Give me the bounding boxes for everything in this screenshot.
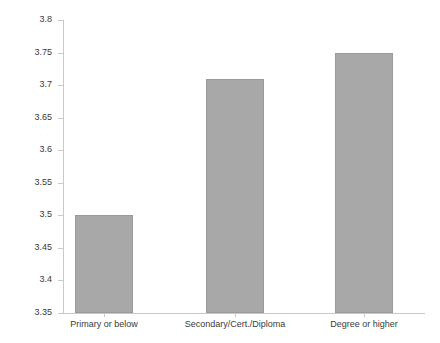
x-axis-tick-mark — [364, 313, 365, 317]
x-axis-category-label: Secondary/Cert./Diploma — [185, 318, 286, 330]
plot-area — [63, 20, 425, 313]
y-axis-tick-label: 3.7 — [0, 79, 52, 90]
bar-chart: 3.83.753.73.653.63.553.53.453.43.35 Prim… — [0, 0, 440, 343]
x-axis-line — [63, 313, 425, 314]
y-axis-tick-label: 3.5 — [0, 209, 52, 220]
y-axis-tick-label: 3.45 — [0, 242, 52, 253]
y-axis-tick-label: 3.35 — [0, 307, 52, 318]
x-axis-category-label: Degree or higher — [330, 318, 398, 330]
y-axis-tick-label: 3.55 — [0, 177, 52, 188]
y-axis-tick-label: 3.6 — [0, 144, 52, 155]
y-axis-tick-mark — [58, 313, 63, 314]
x-axis-tick-mark — [104, 313, 105, 317]
bar — [335, 53, 393, 313]
y-axis-tick-label: 3.75 — [0, 47, 52, 58]
bar — [206, 79, 264, 313]
y-axis-tick-label: 3.4 — [0, 274, 52, 285]
bar — [75, 215, 133, 313]
x-axis-category-label: Primary or below — [70, 318, 138, 330]
y-axis-tick-label: 3.65 — [0, 112, 52, 123]
y-axis-tick-label: 3.8 — [0, 14, 52, 25]
x-axis-tick-mark — [235, 313, 236, 317]
